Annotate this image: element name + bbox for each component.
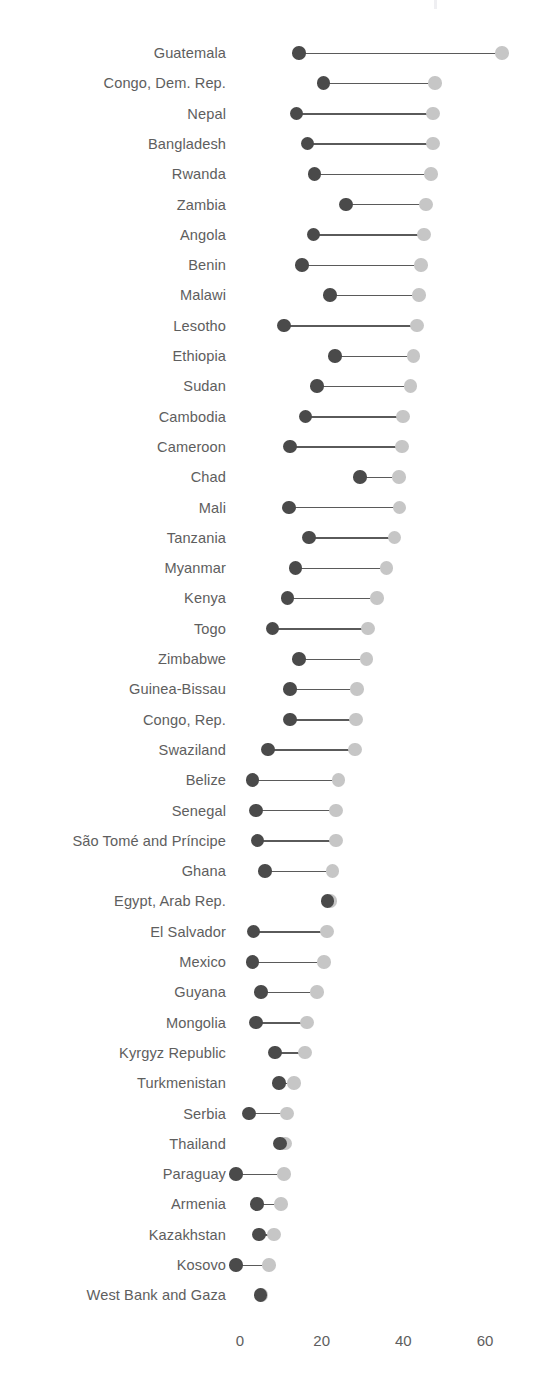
start-value-dot[interactable]	[258, 864, 272, 878]
start-value-dot[interactable]	[229, 1258, 243, 1272]
end-value-dot[interactable]	[393, 501, 407, 515]
category-label: Lesotho	[6, 311, 226, 341]
category-label: Benin	[6, 250, 226, 280]
start-value-dot[interactable]	[272, 1076, 286, 1090]
chart-row: Swaziland	[0, 735, 540, 765]
end-value-dot[interactable]	[267, 1228, 281, 1242]
end-value-dot[interactable]	[417, 228, 431, 242]
connector-line	[290, 446, 402, 447]
end-value-dot[interactable]	[300, 1016, 314, 1030]
end-value-dot[interactable]	[392, 470, 406, 484]
end-value-dot[interactable]	[277, 1167, 291, 1181]
start-value-dot[interactable]	[328, 349, 342, 363]
end-value-dot[interactable]	[287, 1076, 301, 1090]
end-value-dot[interactable]	[349, 713, 363, 727]
start-value-dot[interactable]	[283, 713, 297, 727]
start-value-dot[interactable]	[308, 167, 322, 181]
start-value-dot[interactable]	[289, 561, 303, 575]
end-value-dot[interactable]	[419, 198, 433, 212]
category-label: Armenia	[6, 1189, 226, 1219]
category-label: Angola	[6, 220, 226, 250]
start-value-dot[interactable]	[249, 804, 263, 818]
end-value-dot[interactable]	[360, 652, 374, 666]
start-value-dot[interactable]	[301, 137, 315, 151]
start-value-dot[interactable]	[302, 531, 316, 545]
end-value-dot[interactable]	[274, 1197, 288, 1211]
category-label: Kosovo	[6, 1250, 226, 1280]
end-value-dot[interactable]	[426, 107, 440, 121]
end-value-dot[interactable]	[428, 76, 442, 90]
chart-row: Zimbabwe	[0, 644, 540, 674]
start-value-dot[interactable]	[283, 440, 297, 454]
start-value-dot[interactable]	[261, 743, 275, 757]
start-value-dot[interactable]	[254, 985, 268, 999]
start-value-dot[interactable]	[254, 1288, 268, 1302]
start-value-dot[interactable]	[353, 470, 367, 484]
end-value-dot[interactable]	[350, 682, 364, 696]
end-value-dot[interactable]	[414, 258, 428, 272]
start-value-dot[interactable]	[292, 46, 306, 60]
end-value-dot[interactable]	[298, 1046, 312, 1060]
start-value-dot[interactable]	[290, 107, 304, 121]
chart-row: Ghana	[0, 856, 540, 886]
chart-row: São Tomé and Príncipe	[0, 826, 540, 856]
end-value-dot[interactable]	[380, 561, 394, 575]
start-value-dot[interactable]	[242, 1107, 256, 1121]
start-value-dot[interactable]	[339, 198, 353, 212]
start-value-dot[interactable]	[310, 379, 324, 393]
connector-line	[273, 628, 368, 629]
end-value-dot[interactable]	[426, 137, 440, 151]
end-value-dot[interactable]	[317, 955, 331, 969]
start-value-dot[interactable]	[246, 773, 260, 787]
end-value-dot[interactable]	[424, 167, 438, 181]
category-label: Kazakhstan	[6, 1220, 226, 1250]
connector-line	[290, 719, 356, 720]
start-value-dot[interactable]	[251, 834, 265, 848]
start-value-dot[interactable]	[295, 258, 309, 272]
category-label: Guatemala	[6, 38, 226, 68]
start-value-dot[interactable]	[292, 652, 306, 666]
start-value-dot[interactable]	[268, 1046, 282, 1060]
start-value-dot[interactable]	[321, 894, 335, 908]
start-value-dot[interactable]	[307, 228, 321, 242]
start-value-dot[interactable]	[252, 1228, 266, 1242]
start-value-dot[interactable]	[323, 288, 337, 302]
start-value-dot[interactable]	[283, 682, 297, 696]
start-value-dot[interactable]	[246, 955, 260, 969]
start-value-dot[interactable]	[317, 76, 331, 90]
end-value-dot[interactable]	[320, 925, 334, 939]
start-value-dot[interactable]	[282, 501, 296, 515]
category-label: Chad	[6, 462, 226, 492]
start-value-dot[interactable]	[229, 1167, 243, 1181]
end-value-dot[interactable]	[388, 531, 402, 545]
end-value-dot[interactable]	[396, 410, 410, 424]
category-label: Congo, Dem. Rep.	[6, 68, 226, 98]
end-value-dot[interactable]	[262, 1258, 276, 1272]
end-value-dot[interactable]	[407, 349, 421, 363]
end-value-dot[interactable]	[332, 773, 346, 787]
end-value-dot[interactable]	[329, 834, 343, 848]
end-value-dot[interactable]	[329, 804, 343, 818]
end-value-dot[interactable]	[412, 288, 426, 302]
start-value-dot[interactable]	[281, 591, 295, 605]
end-value-dot[interactable]	[395, 440, 409, 454]
end-value-dot[interactable]	[310, 985, 324, 999]
start-value-dot[interactable]	[299, 410, 313, 424]
end-value-dot[interactable]	[404, 379, 418, 393]
start-value-dot[interactable]	[277, 319, 291, 333]
start-value-dot[interactable]	[247, 925, 261, 939]
end-value-dot[interactable]	[361, 622, 375, 636]
category-label: Turkmenistan	[6, 1068, 226, 1098]
start-value-dot[interactable]	[250, 1197, 264, 1211]
start-value-dot[interactable]	[273, 1137, 287, 1151]
end-value-dot[interactable]	[326, 864, 340, 878]
connector-line	[324, 83, 435, 84]
category-label: El Salvador	[6, 917, 226, 947]
start-value-dot[interactable]	[249, 1016, 263, 1030]
end-value-dot[interactable]	[348, 743, 362, 757]
end-value-dot[interactable]	[410, 319, 424, 333]
end-value-dot[interactable]	[280, 1107, 294, 1121]
start-value-dot[interactable]	[266, 622, 280, 636]
end-value-dot[interactable]	[495, 46, 509, 60]
end-value-dot[interactable]	[370, 591, 384, 605]
